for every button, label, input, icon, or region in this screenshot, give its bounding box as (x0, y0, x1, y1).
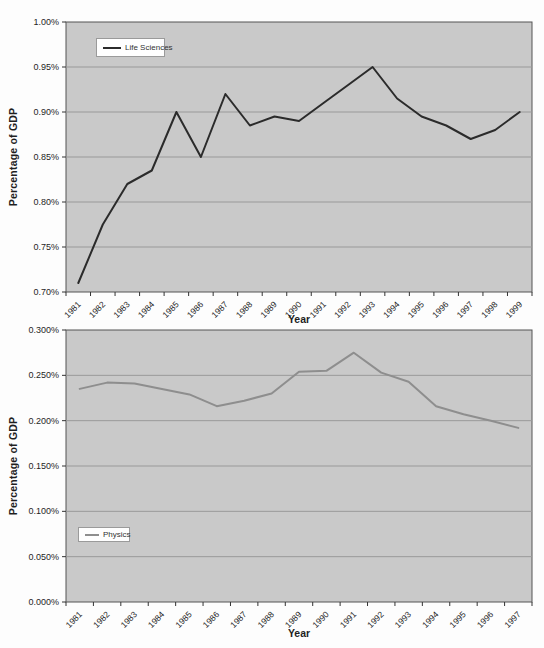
legend-line-icon (103, 47, 121, 49)
x-tick-label: 1995 (406, 299, 427, 320)
x-tick-label: 1986 (185, 299, 206, 320)
y-tick-label: 0.100% (28, 506, 59, 516)
life-sciences-plot-svg: 1.00%0.95%0.90%0.85%0.80%0.75%0.70%19811… (0, 0, 544, 325)
x-tick-label: 1985 (160, 299, 181, 320)
x-tick-label: 1994 (381, 299, 402, 320)
x-axis-title: Year (288, 313, 310, 325)
y-tick-label: 0.75% (33, 242, 59, 252)
legend-physics: Physics (78, 527, 130, 542)
x-tick-label: 1983 (118, 609, 139, 630)
x-tick-label: 1996 (475, 609, 496, 630)
x-tick-label: 1992 (332, 299, 353, 320)
y-tick-label: 0.85% (33, 152, 59, 162)
x-tick-label: 1999 (504, 299, 525, 320)
x-tick-label: 1987 (228, 609, 249, 630)
y-tick-label: 0.300% (28, 325, 59, 335)
y-tick-label: 0.050% (28, 552, 59, 562)
x-tick-label: 1986 (201, 609, 222, 630)
legend-life-sciences: Life Sciences (96, 38, 165, 57)
x-tick-label: 1997 (455, 299, 476, 320)
x-tick-label: 1988 (256, 609, 277, 630)
y-tick-label: 0.70% (33, 287, 59, 297)
x-tick-label: 1984 (146, 609, 167, 630)
x-tick-label: 1991 (338, 609, 359, 630)
x-tick-label: 1988 (234, 299, 255, 320)
x-tick-label: 1997 (502, 609, 523, 630)
page: 1.00%0.95%0.90%0.85%0.80%0.75%0.70%19811… (0, 0, 544, 648)
x-tick-label: 1985 (173, 609, 194, 630)
x-tick-label: 1994 (420, 609, 441, 630)
x-tick-label: 1982 (87, 299, 108, 320)
x-tick-label: 1989 (258, 299, 279, 320)
x-tick-label: 1993 (357, 299, 378, 320)
y-tick-label: 0.200% (28, 416, 59, 426)
y-tick-label: 0.150% (28, 461, 59, 471)
y-tick-label: 0.95% (33, 62, 59, 72)
x-tick-label: 1990 (310, 609, 331, 630)
legend-label: Physics (103, 531, 131, 539)
y-tick-label: 1.00% (33, 17, 59, 27)
x-tick-label: 1982 (91, 609, 112, 630)
physics-plot-svg: 0.300%0.250%0.200%0.150%0.100%0.050%0.00… (0, 325, 544, 648)
x-tick-label: 1983 (111, 299, 132, 320)
y-axis-title: Percentage of GDP (7, 417, 19, 516)
y-tick-label: 0.90% (33, 107, 59, 117)
y-axis-title: Percentage of GDP (7, 108, 19, 207)
x-tick-label: 1984 (136, 299, 157, 320)
x-tick-label: 1998 (479, 299, 500, 320)
x-tick-label: 1981 (62, 299, 83, 320)
x-tick-label: 1981 (64, 609, 85, 630)
y-tick-label: 0.250% (28, 370, 59, 380)
x-tick-label: 1996 (430, 299, 451, 320)
x-tick-label: 1995 (447, 609, 468, 630)
x-axis-title: Year (288, 627, 310, 639)
legend-line-icon (85, 534, 99, 536)
x-tick-label: 1993 (393, 609, 414, 630)
y-tick-label: 0.80% (33, 197, 59, 207)
x-tick-label: 1987 (209, 299, 230, 320)
y-tick-label: 0.000% (28, 597, 59, 607)
chart-physics: 0.300%0.250%0.200%0.150%0.100%0.050%0.00… (0, 325, 544, 648)
x-tick-label: 1991 (307, 299, 328, 320)
chart-life-sciences: 1.00%0.95%0.90%0.85%0.80%0.75%0.70%19811… (0, 0, 544, 325)
x-tick-label: 1992 (365, 609, 386, 630)
legend-label: Life Sciences (125, 44, 173, 52)
